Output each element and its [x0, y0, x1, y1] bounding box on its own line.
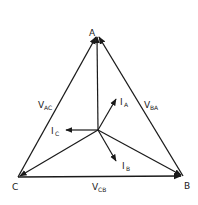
vertex-label-a: A	[89, 28, 96, 38]
label-vba: V BA	[144, 100, 159, 111]
svg-text:CB: CB	[98, 186, 106, 193]
svg-text:AC: AC	[44, 104, 52, 111]
svg-text:B: B	[126, 165, 130, 172]
svg-text:BA: BA	[150, 104, 159, 111]
svg-text:A: A	[124, 101, 129, 108]
vertex-label-b: B	[184, 181, 190, 191]
phasor-diagram: A B C V AC V BA V CB I A I B I C	[0, 0, 198, 205]
svg-text:I: I	[120, 97, 123, 107]
label-ib: I B	[122, 161, 130, 172]
label-ic: I C	[51, 126, 59, 137]
svg-text:I: I	[51, 126, 54, 136]
phase-a-line	[97, 37, 98, 130]
vertex-label-c: C	[12, 182, 18, 192]
svg-text:C: C	[55, 130, 59, 137]
voltage-vcb-line	[18, 176, 181, 177]
label-vcb: V CB	[92, 182, 106, 193]
current-ia-arrow	[98, 99, 116, 130]
label-vac: V AC	[38, 100, 52, 111]
voltage-vac-line	[18, 37, 96, 177]
svg-text:I: I	[122, 161, 125, 171]
label-ia: I A	[120, 97, 129, 108]
